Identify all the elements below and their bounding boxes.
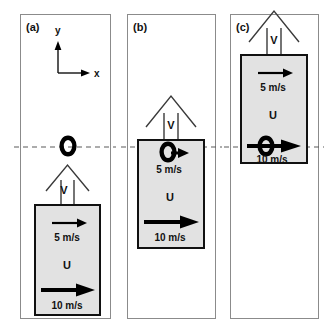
panel-c: (c) V 5 m/s U [224, 11, 324, 319]
train-label-a: U [63, 259, 71, 271]
observer-speed-c: 10 m/s [256, 154, 288, 165]
physics-diagram: (a) y x V [0, 0, 324, 336]
train-label-b: U [166, 191, 174, 203]
train-speed-a: 10 m/s [51, 300, 83, 311]
panel-b: (b) V 5 m/s U [121, 15, 222, 319]
x-axis-label: x [94, 68, 100, 79]
frame-label-b: V [167, 119, 175, 131]
panel-a-label: (a) [26, 21, 40, 33]
walker-speed-c: 5 m/s [260, 82, 286, 93]
train-label-c: U [269, 109, 277, 121]
frame-label-a: V [60, 184, 68, 196]
train-speed-b: 10 m/s [154, 232, 186, 243]
walker-speed-a: 5 m/s [54, 232, 80, 243]
frame-label-c: V [270, 34, 278, 46]
observer-speed-b: 5 m/s [156, 164, 182, 175]
panel-c-label: (c) [236, 21, 250, 33]
train-a: 5 m/s U 10 m/s [35, 205, 100, 315]
panel-a: (a) y x V [14, 15, 116, 319]
panel-b-label: (b) [133, 21, 147, 33]
train-c: 5 m/s U 10 m/s [241, 55, 307, 165]
train-b: 5 m/s U 10 m/s [138, 140, 204, 248]
y-axis-label: y [55, 25, 61, 36]
